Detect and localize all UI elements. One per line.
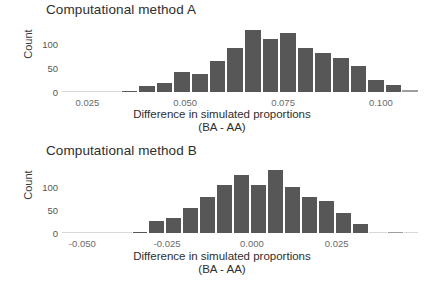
histogram-bar bbox=[138, 86, 156, 92]
panel-method-a: Computational method A Count 050100 0.02… bbox=[0, 0, 444, 140]
y-tick-label: 0 bbox=[53, 87, 58, 98]
histogram-bar bbox=[318, 201, 335, 233]
histogram-outlier-bar bbox=[401, 90, 419, 92]
x-tick-label: 0.025 bbox=[325, 238, 349, 249]
histogram-bar bbox=[250, 185, 267, 233]
histogram-bar bbox=[332, 58, 350, 92]
panel-a-x-axis-label-line2: (BA - AA) bbox=[0, 121, 444, 134]
panel-a-plot-area: 050100 0.0250.0500.0750.100 bbox=[62, 26, 418, 92]
x-tick-label: 0.100 bbox=[369, 97, 393, 108]
histogram-bar bbox=[297, 48, 315, 92]
x-tick-label: -0.025 bbox=[154, 238, 181, 249]
histogram-bar bbox=[350, 66, 368, 92]
x-tick-label: 0.025 bbox=[76, 97, 100, 108]
histogram-bar bbox=[209, 61, 227, 92]
histogram-bar bbox=[352, 224, 369, 233]
y-tick-label: 100 bbox=[42, 181, 58, 192]
panel-a-x-axis-label-line1: Difference in simulated proportions bbox=[133, 108, 311, 120]
histogram-bar bbox=[262, 39, 280, 92]
x-tick-label: -0.050 bbox=[69, 238, 96, 249]
y-tick-label: 0 bbox=[53, 228, 58, 239]
panel-b-y-axis-label: Count bbox=[22, 155, 34, 215]
histogram-bar bbox=[279, 33, 297, 92]
x-tick-label: 0.075 bbox=[271, 97, 295, 108]
panel-b-x-axis-label-line1: Difference in simulated proportions bbox=[133, 250, 311, 262]
histogram-bar bbox=[314, 53, 332, 92]
histogram-bar bbox=[284, 187, 301, 233]
histogram-bar bbox=[121, 91, 139, 92]
histogram-bar bbox=[148, 221, 165, 233]
panel-b-x-axis-label-line2: (BA - AA) bbox=[0, 263, 444, 276]
histogram-bar bbox=[244, 30, 262, 92]
y-tick-label: 100 bbox=[42, 39, 58, 50]
panel-a-title: Computational method A bbox=[46, 2, 196, 17]
histogram-bar bbox=[182, 208, 199, 233]
x-tick-label: 0.000 bbox=[240, 238, 264, 249]
panel-b-plot-area: 050100 -0.050-0.0250.0000.025 bbox=[62, 167, 418, 233]
panel-b-x-axis-label: Difference in simulated proportions (BA … bbox=[0, 250, 444, 276]
panel-b-title: Computational method B bbox=[46, 143, 197, 158]
histogram-bar bbox=[165, 218, 182, 233]
histogram-bar bbox=[385, 85, 403, 92]
figure-root: Computational method A Count 050100 0.02… bbox=[0, 0, 444, 281]
panel-method-b: Computational method B Count 050100 -0.0… bbox=[0, 141, 444, 281]
histogram-bar bbox=[173, 72, 191, 92]
histogram-bar bbox=[335, 213, 352, 233]
panel-b-bars bbox=[62, 167, 418, 233]
histogram-bar bbox=[267, 170, 284, 233]
histogram-bar bbox=[156, 83, 174, 92]
histogram-bar bbox=[367, 80, 385, 92]
histogram-outlier-bar bbox=[387, 232, 404, 233]
histogram-bar bbox=[226, 48, 244, 92]
histogram-bar bbox=[191, 74, 209, 92]
histogram-bar bbox=[233, 175, 250, 233]
panel-a-x-axis-label: Difference in simulated proportions (BA … bbox=[0, 108, 444, 134]
y-tick-label: 50 bbox=[47, 63, 58, 74]
x-tick-label: 0.050 bbox=[173, 97, 197, 108]
histogram-bar bbox=[301, 197, 318, 233]
panel-a-bars bbox=[62, 26, 418, 92]
y-tick-label: 50 bbox=[47, 204, 58, 215]
histogram-bar bbox=[199, 197, 216, 233]
histogram-bar bbox=[132, 232, 149, 233]
histogram-bar bbox=[216, 185, 233, 233]
panel-a-y-axis-label: Count bbox=[22, 14, 34, 74]
